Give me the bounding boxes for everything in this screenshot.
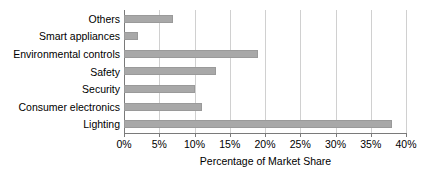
x-tick-label: 35% bbox=[351, 138, 391, 150]
gridline bbox=[406, 10, 407, 133]
bar-row bbox=[124, 28, 406, 46]
bar-row bbox=[124, 63, 406, 81]
x-tick-label: 20% bbox=[245, 138, 285, 150]
category-axis-labels: OthersSmart appliancesEnvironmental cont… bbox=[0, 10, 120, 133]
tick-mark bbox=[195, 133, 196, 137]
plot-area bbox=[124, 10, 406, 133]
x-axis-title: Percentage of Market Share bbox=[124, 155, 407, 167]
market-share-bar-chart: OthersSmart appliancesEnvironmental cont… bbox=[0, 0, 434, 176]
x-tick-label: 10% bbox=[175, 138, 215, 150]
x-tick-label: 25% bbox=[280, 138, 320, 150]
bar bbox=[124, 32, 138, 40]
category-label: Safety bbox=[2, 66, 120, 78]
bar bbox=[124, 85, 195, 93]
category-label: Security bbox=[2, 83, 120, 95]
category-label: Consumer electronics bbox=[2, 101, 120, 113]
tick-mark bbox=[230, 133, 231, 137]
bar-row bbox=[124, 98, 406, 116]
bar bbox=[124, 120, 392, 128]
category-label: Smart appliances bbox=[2, 30, 120, 42]
category-label: Lighting bbox=[2, 118, 120, 130]
category-label: Environmental controls bbox=[2, 48, 120, 60]
bar bbox=[124, 15, 173, 23]
tick-mark bbox=[159, 133, 160, 137]
bar-row bbox=[124, 10, 406, 28]
x-tick-label: 30% bbox=[316, 138, 356, 150]
bar-row bbox=[124, 45, 406, 63]
x-tick-label: 15% bbox=[210, 138, 250, 150]
bar bbox=[124, 50, 258, 58]
category-label: Others bbox=[2, 13, 120, 25]
bar bbox=[124, 103, 202, 111]
tick-mark bbox=[371, 133, 372, 137]
bar-row bbox=[124, 80, 406, 98]
x-tick-label: 5% bbox=[139, 138, 179, 150]
x-tick-label: 0% bbox=[104, 138, 144, 150]
bar-row bbox=[124, 115, 406, 133]
tick-mark bbox=[265, 133, 266, 137]
x-tick-label: 40% bbox=[386, 138, 426, 150]
tick-mark bbox=[124, 133, 125, 137]
tick-mark bbox=[406, 133, 407, 137]
bar bbox=[124, 67, 216, 75]
tick-mark bbox=[300, 133, 301, 137]
tick-mark bbox=[336, 133, 337, 137]
